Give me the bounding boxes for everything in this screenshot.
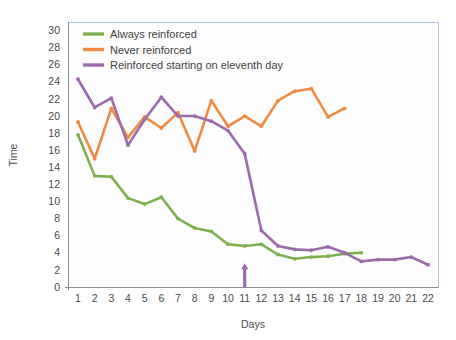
x-tick-label: 5 <box>142 292 148 304</box>
series-point <box>343 251 347 255</box>
series-point <box>193 149 197 153</box>
series-point <box>309 87 313 91</box>
x-tick-label: 12 <box>255 292 267 304</box>
series-point <box>93 174 97 178</box>
x-tick-label: 9 <box>208 292 214 304</box>
series-point <box>109 175 113 179</box>
y-tick-label: 12 <box>48 178 60 190</box>
y-tick-label: 2 <box>54 264 60 276</box>
series-point <box>76 120 80 124</box>
x-tick-label: 16 <box>322 292 334 304</box>
series-point <box>176 114 180 118</box>
series-point <box>209 119 213 123</box>
series-point <box>426 263 430 267</box>
x-tick-label: 7 <box>175 292 181 304</box>
series-point <box>326 245 330 249</box>
series-point <box>159 95 163 99</box>
x-tick-label: 19 <box>372 292 384 304</box>
series-point <box>326 254 330 258</box>
series-point <box>109 106 113 110</box>
series-point <box>359 259 363 263</box>
x-tick-label: 3 <box>108 292 114 304</box>
series-point <box>226 124 230 128</box>
y-tick-label: 14 <box>48 161 60 173</box>
x-tick-label: 11 <box>239 292 250 304</box>
series-point <box>276 244 280 248</box>
line-chart: 024681012141618202224262830 123456789101… <box>0 0 456 340</box>
series-point <box>76 77 80 81</box>
series-point <box>226 129 230 133</box>
y-tick-label: 30 <box>48 24 60 36</box>
y-tick-label: 8 <box>54 212 60 224</box>
series-point <box>326 115 330 119</box>
series-point <box>209 99 213 103</box>
series-point <box>393 258 397 262</box>
x-tick-label: 10 <box>222 292 234 304</box>
series-point <box>209 230 213 234</box>
x-axis-tick-labels: 12345678910111213141516171819202122 <box>75 292 434 304</box>
series-point <box>359 251 363 255</box>
x-tick-label: 21 <box>405 292 417 304</box>
y-tick-label: 26 <box>48 58 60 70</box>
x-tick-label: 2 <box>92 292 98 304</box>
y-tick-label: 18 <box>48 127 60 139</box>
series-point <box>309 255 313 259</box>
x-axis-title: Days <box>241 318 265 330</box>
y-tick-label: 28 <box>48 41 60 53</box>
x-tick-label: 8 <box>192 292 198 304</box>
y-tick-label: 16 <box>48 144 60 156</box>
series-point <box>76 133 80 137</box>
legend-item-label: Reinforced starting on eleventh day <box>110 59 284 71</box>
series-point <box>376 258 380 262</box>
series-point <box>176 217 180 221</box>
x-tick-label: 18 <box>355 292 367 304</box>
y-tick-label: 22 <box>48 93 60 105</box>
x-tick-label: 1 <box>75 292 81 304</box>
series-point <box>293 247 297 251</box>
series-point <box>276 99 280 103</box>
series-point <box>93 157 97 161</box>
y-axis-title: Time <box>7 143 19 166</box>
x-tick-label: 14 <box>289 292 301 304</box>
series-point <box>126 143 130 147</box>
series-point <box>243 152 247 156</box>
series-point <box>293 257 297 261</box>
series-point <box>243 244 247 248</box>
series-point <box>343 106 347 110</box>
x-tick-label: 17 <box>339 292 351 304</box>
legend-item-label: Always reinforced <box>110 28 197 40</box>
x-tick-label: 15 <box>305 292 317 304</box>
legend-item-label: Never reinforced <box>110 44 191 56</box>
y-tick-label: 10 <box>48 195 60 207</box>
y-axis-tick-labels: 024681012141618202224262830 <box>48 24 60 292</box>
x-tick-label: 20 <box>389 292 401 304</box>
series-point <box>93 106 97 110</box>
y-tick-label: 20 <box>48 110 60 122</box>
series-point <box>259 124 263 128</box>
y-tick-label: 24 <box>48 75 60 87</box>
y-tick-label: 4 <box>54 246 60 258</box>
series-point <box>226 242 230 246</box>
series-point <box>109 96 113 100</box>
series-point <box>126 196 130 200</box>
x-tick-label: 13 <box>272 292 284 304</box>
series-point <box>143 118 147 122</box>
series-point <box>259 229 263 233</box>
y-tick-label: 0 <box>54 281 60 293</box>
series-point <box>409 255 413 259</box>
series-point <box>193 114 197 118</box>
series-point <box>193 226 197 230</box>
series-point <box>143 202 147 206</box>
series-point <box>243 114 247 118</box>
x-tick-label: 6 <box>158 292 164 304</box>
x-tick-label: 22 <box>422 292 434 304</box>
series-point <box>276 253 280 257</box>
series-point <box>159 195 163 199</box>
series-point <box>309 248 313 252</box>
x-tick-label: 4 <box>125 292 131 304</box>
series-point <box>159 126 163 130</box>
y-tick-label: 6 <box>54 229 60 241</box>
chart-canvas: 024681012141618202224262830 123456789101… <box>0 0 456 340</box>
series-point <box>259 242 263 246</box>
series-point <box>293 89 297 93</box>
